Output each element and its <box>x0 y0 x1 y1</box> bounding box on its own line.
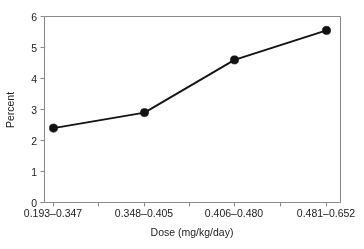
x-axis-title: Dose (mg/kg/day) <box>151 226 234 238</box>
y-axis-tick-labels: 6 5 4 3 2 1 0 <box>31 11 37 209</box>
data-point-3 <box>230 56 238 64</box>
y-tick-label-5: 5 <box>31 42 37 54</box>
y-tick-label-1: 1 <box>31 166 37 178</box>
data-point-2 <box>140 109 148 117</box>
x-tick-label-1: 0.193–0.347 <box>24 207 83 219</box>
y-tick-label-4: 4 <box>31 73 37 85</box>
x-tick-label-3: 0.406–0.480 <box>205 207 264 219</box>
y-tick-label-3: 3 <box>31 104 37 116</box>
y-axis-title: Percent <box>4 92 16 128</box>
y-axis-ticks <box>41 17 45 203</box>
data-point-1 <box>49 124 57 132</box>
x-tick-label-2: 0.348–0.405 <box>115 207 174 219</box>
x-axis-tick-labels: 0.193–0.347 0.348–0.405 0.406–0.480 0.48… <box>24 207 356 219</box>
y-tick-label-6: 6 <box>31 11 37 23</box>
chart-screenshot: 6 5 4 3 2 1 0 0.193–0.347 0.348–0.405 0.… <box>0 0 364 249</box>
line-chart: 6 5 4 3 2 1 0 0.193–0.347 0.348–0.405 0.… <box>0 0 364 249</box>
x-axis-ticks <box>54 203 327 207</box>
x-tick-label-4: 0.481–0.652 <box>297 207 356 219</box>
y-tick-label-2: 2 <box>31 135 37 147</box>
series-line-percent <box>54 30 327 128</box>
data-point-4 <box>322 26 330 34</box>
data-series-percent <box>49 26 330 132</box>
plot-frame <box>45 17 341 203</box>
